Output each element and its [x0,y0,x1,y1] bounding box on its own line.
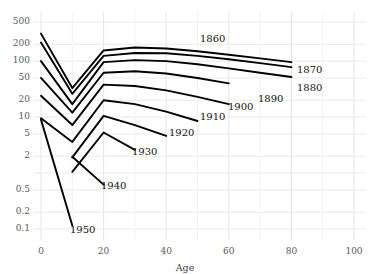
x-axis-tick-40: 40 [146,246,186,256]
y-axis-tick-20: 20 [19,94,30,104]
mortality-by-age-chart: 500200100502010520.50.20.1020406080100Ag… [0,0,370,274]
series-label-1880: 1880 [297,82,322,93]
series-label-1890: 1890 [258,93,283,104]
x-axis-tick-20: 20 [84,246,124,256]
series-label-1930: 1930 [132,146,157,157]
series-label-1910: 1910 [200,111,225,122]
x-axis-title: Age [0,262,370,273]
y-axis-tick-0-5: 0.5 [16,184,30,194]
x-axis-tick-100: 100 [334,246,370,256]
series-label-1920: 1920 [169,127,194,138]
y-axis-tick-10: 10 [19,111,30,121]
y-axis-tick-50: 50 [19,72,30,82]
y-axis-tick-500: 500 [13,16,30,26]
y-axis-tick-2: 2 [24,150,30,160]
x-axis-tick-60: 60 [209,246,249,256]
series-label-1860: 1860 [200,33,225,44]
series-label-1940: 1940 [101,180,126,191]
y-axis-tick-5: 5 [24,128,30,138]
y-axis-tick-100: 100 [13,55,30,65]
x-axis-tick-80: 80 [271,246,311,256]
y-axis-tick-0-2: 0.2 [16,206,30,216]
series-label-1900: 1900 [228,101,253,112]
series-label-1950: 1950 [70,224,95,235]
series-label-1870: 1870 [297,64,322,75]
y-axis-tick-200: 200 [13,38,30,48]
y-axis-tick-0-1: 0.1 [16,223,30,233]
x-axis-tick-0: 0 [21,246,61,256]
